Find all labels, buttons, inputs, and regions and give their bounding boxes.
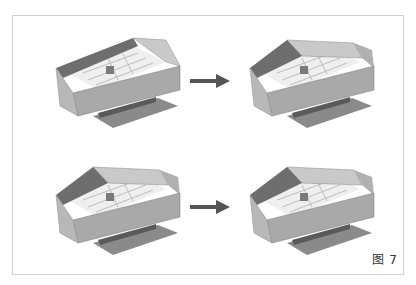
figure-caption: 图 7	[372, 250, 398, 267]
arrow-right-icon	[190, 200, 230, 214]
arrow-right-icon	[190, 74, 230, 88]
model-panel-bottom-right	[232, 155, 382, 265]
model-panel-top-left	[38, 28, 188, 138]
model-panel-bottom-left	[38, 155, 188, 265]
model-panel-top-right	[232, 28, 382, 138]
